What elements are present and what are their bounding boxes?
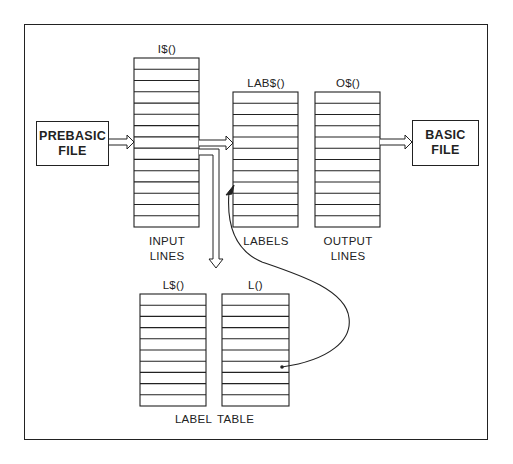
output-array-box (315, 92, 380, 227)
pointer-origin-dot (280, 365, 284, 369)
label-lines-array-box (222, 294, 289, 406)
input-lines-caption-1: INPUT (134, 234, 200, 248)
diagram-canvas (0, 0, 513, 464)
labels-array-box (233, 92, 298, 227)
label-lines-array-title: L() (222, 278, 289, 292)
prebasic-file-box: PREBASIC FILE (36, 121, 109, 166)
input-array-box (134, 58, 199, 227)
label-table-caption: LABEL TABLE (140, 412, 289, 426)
arrow-prebasic-to-input (108, 135, 134, 149)
output-lines-caption-2: LINES (315, 249, 381, 263)
output-lines-caption-1: OUTPUT (315, 234, 381, 248)
output-array-title: O$() (315, 76, 381, 90)
basic-file-label-line1: BASIC (425, 128, 465, 143)
prebasic-file-label-line2: FILE (58, 144, 86, 159)
label-names-array-box (140, 294, 206, 406)
prebasic-file-label-line1: PREBASIC (39, 129, 106, 144)
input-array-title: I$() (134, 42, 200, 56)
arrow-input-to-label-table (199, 149, 223, 268)
labels-caption: LABELS (233, 234, 299, 248)
arrow-output-to-basic (380, 135, 412, 149)
basic-file-box: BASIC FILE (412, 120, 479, 166)
labels-array-title: LAB$() (233, 76, 299, 90)
input-lines-caption-2: LINES (134, 249, 200, 263)
label-names-array-title: L$() (140, 278, 207, 292)
arrow-input-to-labels (199, 136, 233, 150)
basic-file-label-line2: FILE (431, 143, 459, 158)
